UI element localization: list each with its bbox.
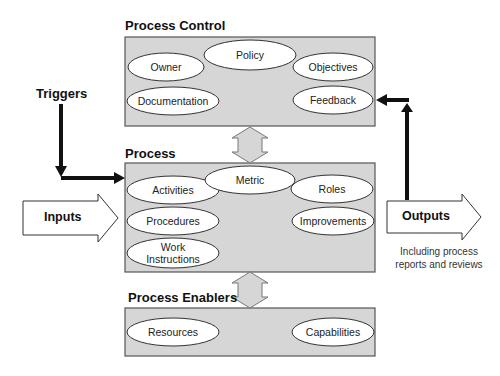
label-activities: Activities <box>127 181 219 199</box>
outputs-note-line2: reports and reviews <box>384 258 494 271</box>
outputs-note: Including process reports and reviews <box>384 245 494 271</box>
label-resources: Resources <box>127 323 219 341</box>
label-work-instructions: Work Instructions <box>140 239 206 267</box>
triggers-arrowhead-right <box>114 172 125 184</box>
label-owner: Owner <box>128 58 204 76</box>
label-roles: Roles <box>291 180 373 198</box>
triggers-label: Triggers <box>36 86 87 101</box>
inputs-label: Inputs <box>44 210 82 224</box>
label-feedback: Feedback <box>293 91 373 109</box>
outputs-label: Outputs <box>402 209 450 223</box>
triggers-arrowhead-down <box>55 166 67 177</box>
feedback-arrowhead-up <box>401 103 413 112</box>
process-control-title: Process Control <box>125 18 225 33</box>
label-improvements: Improvements <box>292 212 374 230</box>
control-process-double-arrow <box>232 127 268 163</box>
label-objectives: Objectives <box>293 58 373 76</box>
process-enablers-title: Process Enablers <box>128 290 237 305</box>
process-title: Process <box>125 146 176 161</box>
label-capabilities: Capabilities <box>292 323 374 341</box>
outputs-note-line1: Including process <box>384 245 494 258</box>
label-documentation: Documentation <box>127 92 219 110</box>
feedback-arrowhead-left <box>376 94 387 106</box>
label-procedures: Procedures <box>127 212 219 230</box>
process-enablers-double-arrow <box>232 272 268 308</box>
label-policy: Policy <box>204 46 296 64</box>
